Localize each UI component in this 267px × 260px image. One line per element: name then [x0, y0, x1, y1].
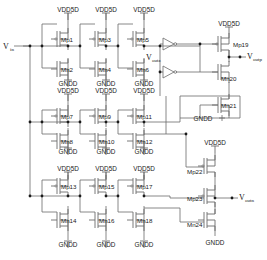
gnd-label-r1c2: GNDD [97, 80, 116, 87]
label-Mn10: Mn10 [99, 138, 115, 145]
gnd-label-r1c3: GNDD [135, 80, 154, 87]
label-Mp5: Mp5 [137, 36, 150, 43]
port-voutp-sub: outp [253, 57, 262, 62]
gnd-label-r3c1: GNDD [59, 241, 78, 248]
port-vin-base: V [3, 42, 9, 51]
label-Mn20: Mn20 [221, 75, 237, 82]
label-Mn2: Mn2 [61, 66, 74, 73]
label-Mn18: Mn18 [137, 217, 153, 224]
buffer-top-icon [163, 38, 174, 50]
label-Mp15: Mp15 [99, 183, 115, 190]
gnd-label-out1: GNDD [194, 115, 213, 122]
ground-ticks [215, 115, 225, 236]
gnd-label-r3c3: GNDD [135, 241, 154, 248]
power-symbols [64, 13, 233, 248]
vdd-label-r3c3: VDD5D [133, 165, 155, 172]
label-Mn12: Mn12 [137, 138, 153, 145]
gnd-label-r2c3: GNDD [135, 148, 154, 155]
bubble-bottom-icon [174, 71, 177, 74]
vdd-label-r2c2: VDD5D [95, 87, 117, 94]
label-Mp9: Mp9 [99, 113, 112, 120]
label-Mp17: Mp17 [137, 183, 153, 190]
buffer-bottom-icon [163, 66, 174, 78]
gnd-label-r1c1: GNDD [59, 80, 78, 87]
schematic-canvas: Mp1 Mn2 Mp3 Mn4 Mp5 Mn6 Mp7 Mn8 Mp9 Mn10… [0, 0, 267, 260]
label-Mp19: Mp19 [233, 41, 249, 48]
circuit-schematic: Mp1 Mn2 Mp3 Mn4 Mp5 Mn6 Mp7 Mn8 Mp9 Mn10… [0, 0, 267, 260]
label-Mp3: Mp3 [99, 36, 112, 43]
vdd-label-r3c2: VDD5D [95, 165, 117, 172]
label-Mn14: Mn14 [61, 217, 77, 224]
label-Mn4: Mn4 [99, 66, 112, 73]
label-Mn6: Mn6 [137, 66, 150, 73]
vdd-label-r1c3: VDD5D [133, 6, 155, 13]
label-Mn16: Mn16 [99, 217, 115, 224]
gnd-label-out2: GNDD [206, 239, 225, 246]
label-Mp7: Mp7 [61, 113, 74, 120]
label-Mp1: Mp1 [61, 36, 74, 43]
vdd-label-out2: VDD5D [204, 139, 226, 146]
gnd-label-r2c2: GNDD [97, 148, 116, 155]
label-Mp22: Mp22 [187, 168, 203, 175]
vdd-label-r1c1: VDD5D [57, 6, 79, 13]
label-Mp23: Mp23 [187, 195, 203, 202]
vdd-label-r2c1: VDD5D [57, 87, 79, 94]
label-Mn24: Mn24 [187, 221, 203, 228]
vdd-label-r1c2: VDD5D [95, 6, 117, 13]
transistor-Mp19 [212, 33, 229, 55]
port-vin-sub: in [10, 47, 14, 52]
wire-network [14, 13, 246, 240]
label-Mn21: Mn21 [221, 102, 237, 109]
vdd-label-out1: VDD5D [218, 20, 240, 27]
port-voutz-sub: outz [152, 58, 161, 63]
port-voutn-sub: outn [245, 198, 254, 203]
label-Mp11: Mp11 [137, 113, 153, 120]
gnd-label-r2c1: GNDD [59, 148, 78, 155]
vdd-label-r2c3: VDD5D [133, 87, 155, 94]
label-Mp13: Mp13 [61, 183, 77, 190]
label-Mn8: Mn8 [61, 138, 74, 145]
buffer-symbols [163, 38, 177, 78]
vdd-label-r3c1: VDD5D [57, 165, 79, 172]
bubble-top-icon [174, 43, 177, 46]
gnd-label-r3c2: GNDD [97, 241, 116, 248]
